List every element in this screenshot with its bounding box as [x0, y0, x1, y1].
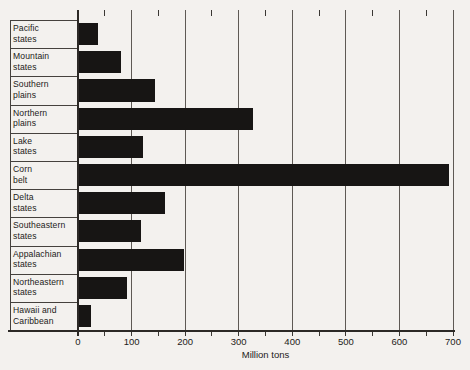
category-label: Lake states: [13, 136, 75, 158]
category-label: Southeastern states: [13, 220, 75, 242]
x-minor-tick-top: [265, 10, 266, 16]
category-label: Appalachian states: [13, 249, 75, 271]
row-separator: [10, 161, 78, 162]
bar: [79, 192, 165, 214]
x-tick-label: 200: [165, 336, 205, 347]
bar: [79, 277, 127, 299]
category-label: Southern plains: [13, 79, 75, 101]
row-separator: [10, 274, 78, 275]
category-label: Northeastern states: [13, 277, 75, 299]
row-separator: [10, 217, 78, 218]
category-label: Delta states: [13, 192, 75, 214]
x-tick-bottom: [426, 332, 427, 336]
bar: [79, 23, 98, 45]
x-tick-label: 400: [272, 336, 312, 347]
bar: [79, 164, 449, 186]
label-column-border: [10, 20, 11, 330]
x-tick-label: 600: [379, 336, 419, 347]
row-separator: [10, 105, 78, 106]
gridline: [453, 10, 454, 330]
bar: [79, 79, 155, 101]
bar: [79, 108, 253, 130]
x-tick-label: 0: [58, 336, 98, 347]
x-tick-bottom: [158, 332, 159, 336]
x-tick-bottom: [319, 332, 320, 336]
x-tick-bottom: [104, 332, 105, 336]
category-label: Hawaii and Caribbean: [13, 305, 75, 327]
x-tick-label: 100: [112, 336, 152, 347]
row-separator: [10, 20, 78, 21]
bar: [79, 220, 141, 242]
category-label: Northern plains: [13, 108, 75, 130]
x-tick-label: 700: [433, 336, 470, 347]
x-minor-tick-top: [426, 10, 427, 16]
x-minor-tick-top: [158, 10, 159, 16]
row-separator: [10, 76, 78, 77]
row-separator: [10, 48, 78, 49]
x-minor-tick-top: [319, 10, 320, 16]
x-tick-label: 300: [219, 336, 259, 347]
y-axis-line: [77, 10, 79, 336]
x-tick-label: 500: [326, 336, 366, 347]
row-separator: [10, 189, 78, 190]
bar: [79, 305, 91, 327]
x-axis-line: [8, 330, 455, 332]
x-tick-bottom: [265, 332, 266, 336]
category-label: Mountain states: [13, 51, 75, 73]
x-minor-tick-top: [104, 10, 105, 16]
x-tick-bottom: [372, 332, 373, 336]
x-axis-title: Million tons: [78, 349, 453, 360]
category-label: Corn belt: [13, 164, 75, 186]
x-tick-bottom: [211, 332, 212, 336]
x-minor-tick-top: [372, 10, 373, 16]
category-label: Pacific states: [13, 23, 75, 45]
row-separator: [10, 302, 78, 303]
bar: [79, 249, 184, 271]
x-minor-tick-top: [211, 10, 212, 16]
row-separator: [10, 246, 78, 247]
bar: [79, 136, 143, 158]
bar-chart: Million tons Pacific statesMountain stat…: [0, 0, 470, 370]
bar: [79, 51, 121, 73]
row-separator: [10, 133, 78, 134]
